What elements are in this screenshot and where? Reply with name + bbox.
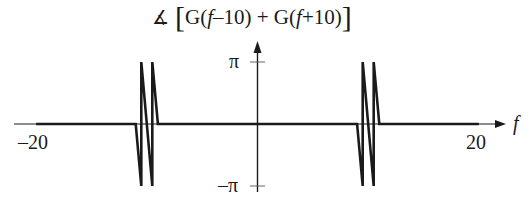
x-tick-label-min: –20 bbox=[18, 132, 48, 152]
y-tick-label-neg-pi: –π bbox=[218, 175, 238, 195]
x-axis-label: f bbox=[513, 113, 519, 133]
x-axis-arrowhead bbox=[495, 120, 506, 128]
y-tick-label-pi: π bbox=[229, 51, 239, 71]
phase-chart bbox=[0, 0, 529, 198]
x-tick-label-max: 20 bbox=[466, 132, 486, 152]
y-axis-arrowhead bbox=[254, 41, 262, 53]
